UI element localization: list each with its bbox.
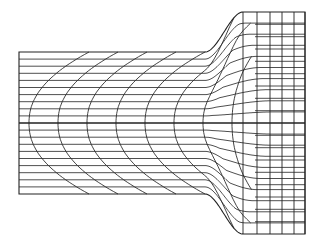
- flow-line: [19, 68, 305, 88]
- flow-line: [19, 112, 305, 116]
- flow-line: [19, 79, 305, 95]
- flow-line: [19, 187, 305, 223]
- transverse-line: [174, 18, 234, 123]
- flow-line: [19, 159, 305, 179]
- flow-line: [19, 151, 305, 167]
- deformed-grid: [0, 0, 322, 247]
- flow-line: [19, 90, 305, 102]
- transverse-line: [174, 123, 234, 228]
- flow-line: [19, 130, 305, 134]
- mesh-diagram: [0, 0, 322, 247]
- flow-line: [19, 144, 305, 156]
- flow-line: [19, 23, 305, 59]
